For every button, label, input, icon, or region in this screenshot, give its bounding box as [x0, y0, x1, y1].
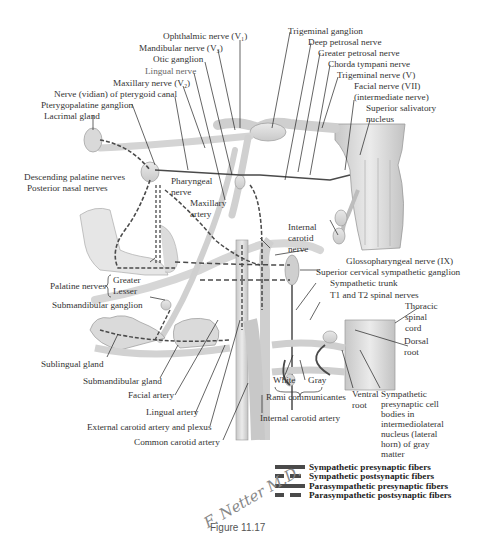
pterygopalatine-ganglion [141, 162, 159, 182]
label-maxillary: Maxillary [190, 198, 226, 208]
legend-item: Parasympathetic postsynaptic fibers [275, 491, 451, 501]
label-maxillary-nerve: Maxillary nerve (V₂) [113, 78, 190, 88]
legend-item: Sympathetic presynaptic fibers [275, 462, 451, 472]
brainstem [335, 124, 405, 250]
label-greater: Greater [113, 275, 141, 285]
label-ventral: Ventral [352, 389, 379, 399]
legend-label: Sympathetic postsynaptic fibers [309, 471, 434, 481]
label-sympathetic-trunk: Sympathetic trunk [330, 278, 398, 288]
label-chorda-tympani-nerve: Chorda tympani nerve [328, 59, 410, 69]
dashed-line-icon [275, 493, 305, 497]
label-intermediate-nerve: (intermediate nerve) [354, 92, 429, 102]
label-lingual-artery: Lingual artery [146, 407, 198, 417]
glossopharyngeal-ganglia [333, 190, 358, 244]
label-ophthalmic-nerve: Ophthalmic nerve (V₁) [163, 31, 247, 41]
label-submandibular-gland: Submandibular gland [83, 376, 162, 386]
label-glossopharyngeal-nerve: Glossopharyngeal nerve (IX) [346, 256, 453, 266]
label-common-carotid: Common carotid artery [134, 437, 220, 447]
label-salivatory-nucleus: nucleus [366, 114, 394, 124]
label-internal-carotid-nerve: nerve [288, 244, 308, 254]
label-superior-cervical-ganglion: Superior cervical sympathetic ganglion [316, 267, 460, 277]
legend-label: Parasympathetic postsynaptic fibers [309, 490, 451, 500]
label-deep-petrosal-nerve: Deep petrosal nerve [308, 37, 381, 47]
label-dorsal: Dorsal [404, 336, 429, 346]
label-lingual-nerve: Lingual nerve [145, 66, 196, 76]
label-vidian-nerve: Nerve (vidian) of pterygoid canal [54, 89, 177, 99]
label-ventral-root: root [352, 400, 367, 410]
label-facial-nerve: Facial nerve (VII) [354, 81, 420, 91]
label-submandibular-ganglion: Submandibular ganglion [52, 300, 143, 310]
label-facial-artery: Facial artery [128, 390, 174, 400]
label-superior-salivatory: Superior salivatory [366, 103, 436, 113]
label-descending-palatine-nerves: Descending palatine nerves [24, 172, 125, 182]
label-spinal: spinal [405, 312, 427, 322]
label-maxillary-artery: artery [190, 209, 211, 219]
label-external-carotid: External carotid artery and plexus [87, 422, 212, 432]
superior-cervical-ganglion [285, 255, 299, 410]
fiber-legend: Sympathetic presynaptic fibers Sympathet… [275, 462, 451, 500]
label-lesser: Lesser [113, 286, 137, 296]
label-rami-communicantes: Rami communicantes [266, 392, 346, 402]
legend-item: Parasympathetic presynaptic fibers [275, 481, 451, 491]
label-sublingual-gland: Sublingual gland [41, 359, 104, 369]
label-carotid: carotid [288, 233, 314, 243]
label-internal-carotid-artery: Internal carotid artery [260, 413, 340, 423]
nasal-palate-region [80, 208, 178, 275]
label-sympathetic-cell-bodies: Sympathetic presynaptic cell bodies in i… [381, 389, 451, 459]
label-dorsal-root: root [404, 347, 419, 357]
carotid-arteries [236, 240, 270, 440]
lacrimal-gland [84, 128, 102, 152]
label-white: White [273, 375, 295, 385]
label-pharyngeal: Pharyngeal [171, 176, 212, 186]
label-lacrimal-gland: Lacrimal gland [44, 111, 100, 121]
label-trigeminal-ganglion: Trigeminal ganglion [288, 26, 363, 36]
legend-label: Sympathetic presynaptic fibers [309, 462, 431, 472]
legend-label: Parasympathetic presynaptic fibers [309, 481, 448, 491]
label-t1-t2-spinal-nerves: T1 and T2 spinal nerves [330, 290, 419, 300]
label-internal: Internal [288, 222, 317, 232]
label-greater-petrosal-nerve: Greater petrosal nerve [318, 48, 400, 58]
label-pharyngeal-nerve: nerve [171, 187, 191, 197]
label-pterygopalatine-ganglion: Pterygopalatine ganglion [41, 100, 133, 110]
label-gray: Gray [308, 375, 326, 385]
label-trigeminal-nerve: Trigeminal nerve (V) [337, 70, 415, 80]
label-thoracic: Thoracic [405, 301, 438, 311]
label-mandibular-nerve: Mandibular nerve (V₃) [139, 43, 223, 53]
label-posterior-nasal-nerves: Posterior nasal nerves [27, 183, 108, 193]
figure-caption: Figure 11.17 [210, 522, 265, 533]
label-palatine-nerves: Palatine nerves [50, 281, 106, 291]
label-otic-ganglion: Otic ganglion [153, 54, 203, 64]
label-spinal-cord: cord [405, 323, 421, 333]
